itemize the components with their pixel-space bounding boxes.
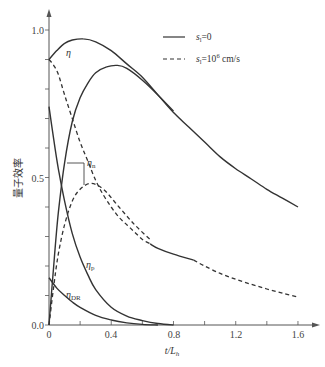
curve-series-0 (49, 39, 298, 207)
y-tick-label-1: 1.0 (32, 25, 45, 36)
curve-series-7 (49, 278, 158, 325)
y-tick-label-0: 0.0 (32, 320, 45, 331)
quantum-efficiency-chart: 0.0 0.5 1.0 0 0.4 0.8 1.2 1.6 t/Lh 量子效率 … (0, 0, 325, 367)
curve-series-5 (194, 260, 298, 297)
eta-n-label: ηn (87, 157, 96, 170)
curve-series-3 (49, 183, 150, 325)
x-axis-arrow-icon (312, 323, 320, 328)
curves (49, 39, 298, 325)
legend-dashed-label: sl=106 cm/s (196, 52, 240, 65)
x-tick-label-12: 1.2 (230, 329, 243, 340)
y-ticks (45, 30, 49, 325)
eta-label: η (66, 47, 71, 58)
x-ticks (80, 321, 298, 325)
x-axis-title: t/Lh (165, 345, 180, 358)
eta-n-bracket (67, 163, 84, 185)
y-tick-label-05: 0.5 (32, 173, 45, 184)
x-tick-label-16: 1.6 (292, 329, 305, 340)
legend: sl=0 sl=106 cm/s (163, 32, 240, 65)
y-axis-title: 量子效率 (12, 158, 24, 198)
x-tick-label-04: 0.4 (105, 329, 118, 340)
x-tick-label-0: 0 (47, 329, 52, 340)
axes (45, 9, 320, 328)
eta-dr-label: ηDR (66, 289, 81, 302)
x-tick-label-08: 0.8 (168, 329, 181, 340)
curve-series-4 (150, 244, 194, 260)
legend-solid-label: sl=0 (196, 32, 212, 43)
y-axis-arrow-icon (47, 9, 52, 17)
eta-p-label: ηp (86, 259, 95, 272)
curve-series-2 (49, 60, 150, 244)
